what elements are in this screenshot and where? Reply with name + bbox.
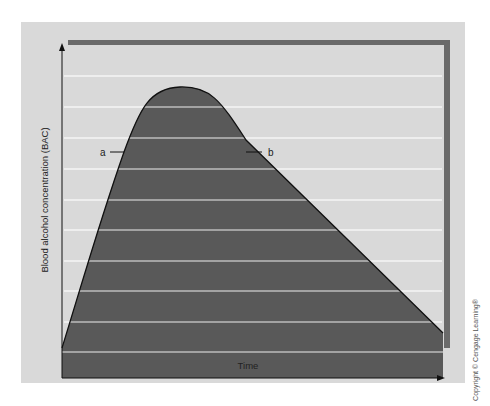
x-axis-label: Time bbox=[238, 360, 259, 371]
annot-a-label: a bbox=[100, 147, 106, 158]
y-axis-label: Blood alcohol concentration (BAC) bbox=[39, 127, 50, 272]
right-border-bar bbox=[444, 40, 450, 348]
top-border-bar bbox=[68, 40, 450, 45]
bac-chart: a b Time Blood alcohol concentration (BA… bbox=[0, 0, 490, 406]
copyright-notice: Copyright © Cengage Learning® bbox=[472, 298, 480, 401]
annot-b-label: b bbox=[268, 147, 274, 158]
